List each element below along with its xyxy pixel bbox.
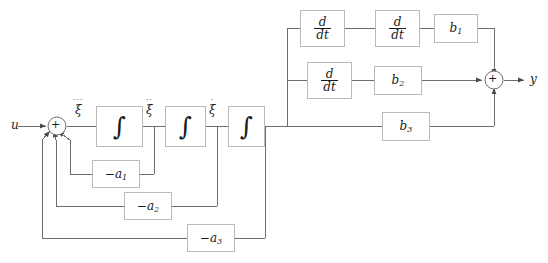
integral-icon: ∫: [113, 114, 126, 139]
gain-a1-block[interactable]: −a1: [92, 160, 140, 188]
integrator-1-block[interactable]: ∫: [96, 106, 143, 147]
d-dt-fraction: d dt: [321, 68, 338, 93]
signal-label-xi-3rd: ···ξ: [75, 101, 82, 117]
integrator-2-block[interactable]: ∫: [165, 106, 206, 147]
d-dt-fraction: d dt: [389, 16, 406, 41]
wire-a3-to-sum: [42, 131, 50, 140]
input-label: u: [11, 119, 19, 131]
gain-b3-block[interactable]: b3: [382, 112, 430, 141]
gain-a2-label: −a2: [137, 199, 159, 214]
gain-a1-label: −a1: [105, 167, 127, 182]
integral-icon: ∫: [240, 114, 253, 139]
input-summer-sign: +: [51, 119, 60, 130]
gain-b1-label: b1: [450, 21, 463, 36]
overdots-3rd: ···: [73, 96, 84, 104]
gain-b3-label: b3: [400, 119, 413, 134]
signal-label-xi-2nd: ··ξ: [146, 101, 153, 117]
signal-label-xi-1st: ·ξ: [209, 101, 216, 117]
gain-a3-block[interactable]: −a3: [187, 224, 235, 252]
derivative-2-block[interactable]: d dt: [375, 10, 420, 47]
d-dt-fraction: d dt: [314, 16, 331, 41]
integral-icon: ∫: [179, 114, 192, 139]
derivative-3-block[interactable]: d dt: [307, 62, 352, 99]
gain-b1-block[interactable]: b1: [434, 14, 478, 43]
overdots-1st: ·: [211, 96, 215, 104]
output-summer-sign: +: [488, 73, 497, 84]
gain-a2-block[interactable]: −a2: [124, 192, 172, 220]
output-label: y: [530, 73, 537, 85]
gain-b2-label: b2: [392, 73, 405, 88]
gain-b2-block[interactable]: b2: [374, 66, 422, 95]
overdots-2nd: ··: [146, 96, 153, 104]
integrator-3-block[interactable]: ∫: [228, 106, 265, 147]
derivative-1-block[interactable]: d dt: [300, 10, 345, 47]
gain-a3-label: −a3: [200, 231, 222, 246]
